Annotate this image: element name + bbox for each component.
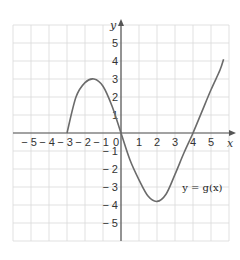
x-tick-label: 5 — [208, 136, 214, 148]
y-axis-arrow-icon — [118, 19, 124, 26]
x-tick-label: − 5 — [21, 136, 37, 148]
curve-g — [67, 59, 224, 201]
x-axis-label: x — [227, 137, 234, 150]
x-tick-label: − 3 — [57, 136, 73, 148]
axes: x y 0 — [13, 19, 236, 241]
y-axis-label: y — [109, 19, 117, 32]
y-tick-label: − 5 — [102, 217, 118, 229]
y-tick-label: 5 — [112, 37, 118, 49]
function-graph: x y 0 − 5− 4− 3− 2− 11234554321− 1− 2− 3… — [0, 0, 240, 260]
x-tick-label: 2 — [154, 136, 160, 148]
y-tick-label: − 4 — [102, 199, 118, 211]
y-tick-label: − 1 — [102, 145, 118, 157]
y-tick-label: 3 — [112, 73, 118, 85]
y-tick-label: − 2 — [102, 163, 118, 175]
curve-label: y = g(x) — [181, 182, 222, 193]
x-tick-label: 3 — [172, 136, 178, 148]
y-tick-label: 4 — [112, 55, 118, 67]
x-tick-label: − 4 — [39, 136, 55, 148]
x-axis-arrow-icon — [229, 130, 236, 136]
x-tick-label: 1 — [136, 136, 142, 148]
x-tick-label: − 2 — [75, 136, 91, 148]
y-tick-label: − 3 — [102, 181, 118, 193]
y-tick-label: 2 — [112, 91, 118, 103]
